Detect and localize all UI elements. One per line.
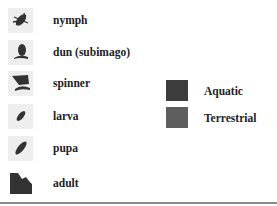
- legend-label: dun (subimago): [53, 46, 130, 58]
- legend-label: Terrestrial: [204, 112, 256, 124]
- dun-icon: [8, 40, 33, 65]
- legend-label: larva: [53, 110, 79, 122]
- pupa-icon: [8, 136, 33, 161]
- divider: [0, 202, 277, 204]
- legend-item-nymph: nymph: [8, 8, 88, 32]
- legend-item-aquatic: Aquatic: [166, 80, 243, 101]
- larva-icon: [8, 104, 33, 129]
- legend-item-larva: larva: [8, 104, 79, 128]
- legend-item-dun: dun (subimago): [8, 40, 130, 64]
- legend-label: nymph: [53, 14, 88, 26]
- legend-item-spinner: spinner: [8, 71, 90, 95]
- adult-icon: [8, 171, 33, 196]
- aquatic-swatch: [166, 80, 188, 101]
- legend: nymph dun (subimago) spinner larva pup: [0, 0, 277, 202]
- legend-item-terrestrial: Terrestrial: [166, 107, 256, 128]
- terrestrial-swatch: [166, 107, 188, 128]
- legend-label: pupa: [53, 142, 78, 154]
- legend-item-adult: adult: [8, 171, 79, 195]
- nymph-icon: [8, 8, 33, 33]
- legend-label: spinner: [53, 77, 90, 89]
- legend-label: adult: [53, 177, 79, 189]
- spinner-icon: [8, 71, 33, 96]
- legend-label: Aquatic: [204, 85, 243, 97]
- legend-item-pupa: pupa: [8, 136, 78, 160]
